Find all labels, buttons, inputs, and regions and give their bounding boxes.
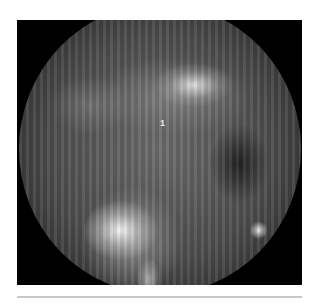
scope-field-of-view	[19, 20, 301, 285]
annotation-label: 1	[160, 118, 165, 128]
divider-line	[17, 296, 302, 298]
scanline-artifact	[19, 20, 301, 285]
endoscopic-image: 1	[17, 20, 302, 285]
